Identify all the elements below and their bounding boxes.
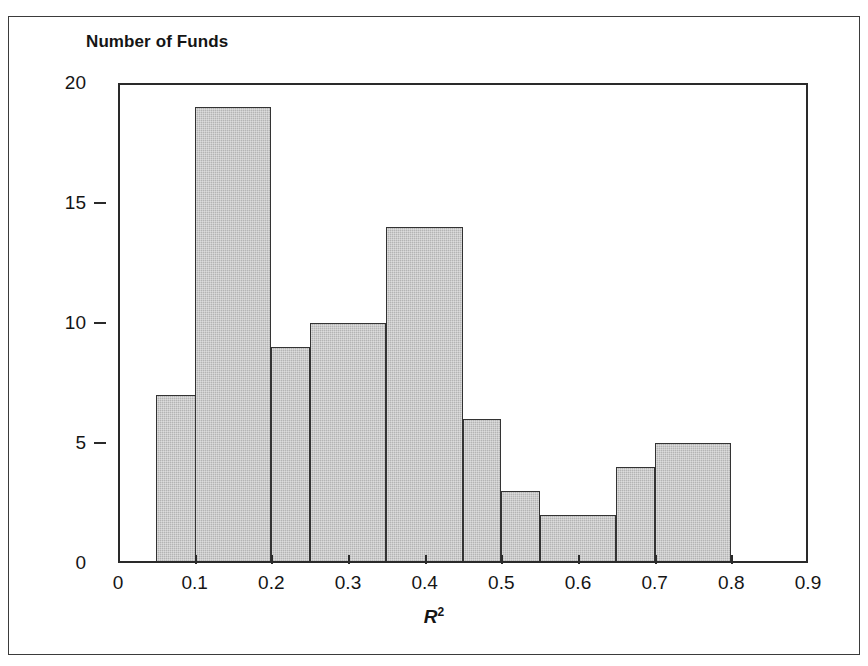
x-axis-tick-labels: 00.10.20.30.40.50.60.70.80.9 [118, 572, 808, 602]
x-axis-tick-label: 0 [78, 572, 158, 594]
x-axis-tick-mark [655, 555, 657, 564]
x-axis-tick-label: 0.2 [231, 572, 311, 594]
y-axis-tick-mark [94, 322, 106, 324]
y-axis-tick-mark [94, 442, 106, 444]
x-axis-tick-mark [425, 555, 427, 564]
histogram-bar [501, 491, 539, 563]
x-axis-tick-label: 0.1 [155, 572, 235, 594]
histogram-figure: Number of Funds 05101520 00.10.20.30.40.… [0, 0, 868, 666]
x-axis-title-base: R [424, 606, 438, 627]
y-axis-tick-mark [94, 202, 106, 204]
y-axis-tick-label: 20 [32, 72, 86, 94]
x-axis-tick-label: 0.6 [538, 572, 618, 594]
x-axis-tick-mark [501, 555, 503, 564]
x-axis-tick-mark [195, 555, 197, 564]
histogram-bar [195, 107, 272, 563]
x-axis-tick-label: 0.3 [308, 572, 388, 594]
x-axis-tick-mark [578, 555, 580, 564]
x-axis-tick-mark [731, 555, 733, 564]
histogram-bar [271, 347, 309, 563]
histogram-bar [616, 467, 654, 563]
x-axis-title-exponent: 2 [438, 605, 445, 619]
y-axis-title: Number of Funds [86, 32, 228, 52]
y-axis-tick-label: 10 [32, 312, 86, 334]
x-axis-tick-label: 0.4 [385, 572, 465, 594]
plot-area [118, 83, 808, 563]
y-axis-tick-labels: 05101520 [24, 83, 86, 563]
histogram-bar [386, 227, 463, 563]
y-axis-tick-label: 15 [32, 192, 86, 214]
x-axis-tick-label: 0.5 [461, 572, 541, 594]
x-axis-tick-mark [348, 555, 350, 564]
clipped-caption-strip [0, 0, 868, 15]
x-axis-tick-label: 0.8 [691, 572, 771, 594]
y-axis-tick-label: 0 [32, 552, 86, 574]
y-axis-tick-label: 5 [32, 432, 86, 454]
x-axis-title: R2 [0, 606, 868, 628]
x-axis-tick-label: 0.7 [615, 572, 695, 594]
histogram-bar [655, 443, 732, 563]
x-axis-tick-label: 0.9 [768, 572, 848, 594]
x-axis-tick-mark [271, 555, 273, 564]
histogram-bar [463, 419, 501, 563]
histogram-bar [310, 323, 387, 563]
